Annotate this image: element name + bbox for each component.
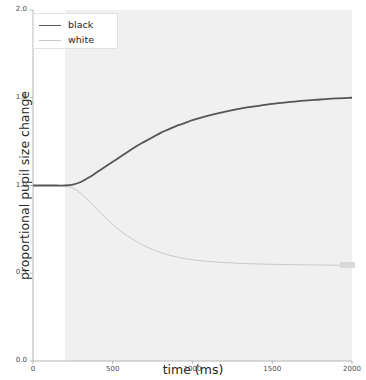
chart-legend: black white: [33, 13, 118, 49]
x-tick-label: 2000: [332, 365, 366, 373]
stimulus-shaded-region: [65, 10, 352, 361]
legend-swatch-white: [39, 40, 61, 41]
legend-item-white: white: [39, 33, 94, 47]
x-tick-label: 1000: [173, 365, 213, 373]
x-tick-label: 0: [13, 365, 53, 373]
white-series-end-marker: [340, 262, 355, 268]
y-tick-label: 2.0: [3, 5, 27, 13]
x-tick-label: 1500: [252, 365, 292, 373]
legend-swatch-black: [39, 25, 61, 26]
y-tick-label: 1.0: [3, 181, 27, 189]
legend-label-white: white: [68, 35, 94, 45]
legend-item-black: black: [39, 18, 93, 32]
y-tick-label: 0.0: [3, 356, 27, 364]
y-tick-label: 0.5: [3, 268, 27, 276]
y-tick-label: 1.5: [3, 93, 27, 101]
legend-label-black: black: [68, 20, 93, 30]
x-tick-label: 500: [93, 365, 133, 373]
